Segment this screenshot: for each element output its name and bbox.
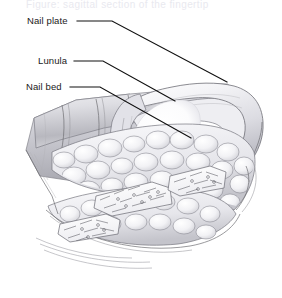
figure-container: Figure: sagittal section of the fingerti…: [0, 0, 282, 298]
leader-line-nail-plate: [77, 21, 227, 82]
fingertip-cross-section: [26, 83, 263, 268]
label-nail-bed: Nail bed: [26, 81, 62, 92]
cut-off-heading: Figure: sagittal section of the fingerti…: [26, 0, 209, 10]
anatomy-illustration: Figure: sagittal section of the fingerti…: [0, 0, 282, 298]
labels: Nail plate Lunula Nail bed: [26, 15, 68, 92]
label-lunula: Lunula: [38, 55, 68, 66]
label-nail-plate: Nail plate: [27, 15, 68, 26]
